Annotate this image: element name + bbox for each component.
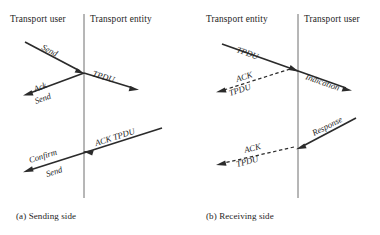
panel-sending-side: Transport user Transport entity	[10, 14, 162, 221]
panel-b-right-header: Transport user	[304, 14, 360, 24]
panel-b-label-indication: Indication	[303, 71, 341, 93]
panel-b-label-ack-upper: ACK	[234, 69, 255, 84]
panel-a-caption: (a) Sending side	[16, 211, 76, 221]
panel-a-label-tpdu: TPDU	[91, 68, 116, 84]
panel-b-left-header: Transport entity	[206, 14, 268, 24]
panel-receiving-side: Transport entity Transport user	[206, 14, 360, 221]
panel-b-caption: (b) Receiving side	[206, 211, 274, 221]
panel-a-right-header: Transport entity	[90, 14, 152, 24]
panel-a-label-send-request: Send	[40, 42, 60, 59]
panel-b-label-tpdu-in: TPDU	[235, 44, 260, 61]
panel-b-label-tpdu-upper: TPDU	[228, 81, 253, 98]
panel-b-label-ack-lower: ACK	[242, 141, 263, 155]
figure-canvas: Transport user Transport entity	[0, 0, 380, 235]
panel-a-left-header: Transport user	[10, 14, 66, 24]
transport-primitives-figure: Transport user Transport entity	[0, 0, 380, 235]
panel-a-label-ack-tpdu: ACK TPDU	[93, 126, 137, 148]
panel-a-label-send-confirm: Send	[45, 164, 65, 179]
panel-b-label-tpdu-lower: TPDU	[235, 153, 260, 168]
